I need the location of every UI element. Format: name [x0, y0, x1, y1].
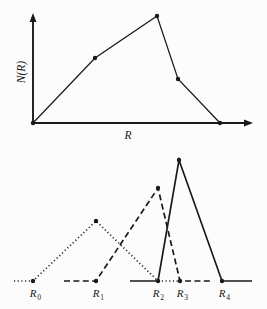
figure-svg: N(R) R: [0, 0, 267, 309]
top-panel: N(R) R: [15, 13, 253, 141]
y-axis-label: N(R): [15, 61, 28, 85]
data-point: [93, 56, 97, 60]
figure-container: N(R) R: [0, 0, 267, 309]
nr-curve: [33, 16, 220, 123]
data-point: [155, 14, 159, 18]
tick-label-r2: R 2: [152, 287, 164, 302]
tick-label-subscript: 1: [100, 293, 104, 302]
peak-marker: [156, 186, 160, 190]
basis-function-dashed: [64, 188, 210, 281]
basis-function-dotted: [14, 221, 180, 281]
tick-label-base: R: [176, 287, 184, 299]
data-point: [31, 121, 35, 125]
y-axis-arrowhead: [30, 13, 37, 22]
node-marker: [220, 279, 224, 283]
basis-function-solid: [130, 160, 252, 281]
node-marker: [31, 279, 35, 283]
peak-marker: [94, 219, 98, 223]
tick-label-r4: R 4: [218, 287, 230, 302]
tick-label-r0: R 0: [29, 287, 41, 302]
node-marker: [156, 279, 160, 283]
node-marker: [178, 279, 182, 283]
data-point: [176, 77, 180, 81]
y-axis: [30, 13, 37, 123]
tick-label-base: R: [218, 287, 226, 299]
tick-label-subscript: 2: [160, 293, 164, 302]
tick-label-base: R: [29, 287, 37, 299]
x-axis-label: R: [123, 129, 131, 141]
node-marker: [94, 279, 98, 283]
tick-label-subscript: 3: [184, 293, 188, 302]
tick-label-base: R: [152, 287, 160, 299]
data-point: [218, 121, 222, 125]
tick-label-subscript: 0: [37, 293, 41, 302]
peak-marker: [177, 158, 181, 162]
x-axis-arrowhead: [244, 120, 253, 127]
bottom-panel: R 0 R 1 R 2 R 3 R 4: [14, 158, 252, 302]
tick-label-r3: R 3: [176, 287, 188, 302]
tick-label-subscript: 4: [226, 293, 230, 302]
tick-label-base: R: [92, 287, 100, 299]
tick-label-r1: R 1: [92, 287, 104, 302]
